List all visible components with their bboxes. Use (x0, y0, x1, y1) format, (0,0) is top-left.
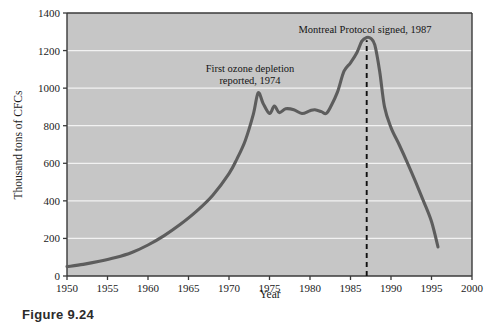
y-tick-label-400: 400 (44, 195, 61, 207)
x-tick-label-1960: 1960 (137, 282, 160, 294)
figure-container: 0200400600800100012001400 19501955196019… (0, 0, 497, 325)
annotation-first-ozone-depletion-line-2: reported, 1974 (219, 75, 281, 86)
figure-caption: Figure 9.24 (22, 307, 94, 325)
x-tick-label-1980: 1980 (299, 282, 322, 294)
annotation-first-ozone-depletion-line-1: First ozone depletion (206, 63, 295, 74)
y-tick-label-1400: 1400 (38, 7, 61, 19)
annotation-montreal-protocol-line-1: Montreal Protocol signed, 1987 (299, 24, 432, 35)
y-tick-label-200: 200 (44, 232, 61, 244)
y-tick-label-800: 800 (44, 120, 61, 132)
y-tick-label-0: 0 (55, 270, 61, 282)
x-axis-title: Year (259, 288, 280, 300)
x-tick-label-1955: 1955 (97, 282, 120, 294)
y-axis: 0200400600800100012001400 (38, 7, 67, 282)
x-tick-label-1990: 1990 (380, 282, 403, 294)
cfc-production-line-chart: 0200400600800100012001400 19501955196019… (0, 0, 497, 300)
y-tick-label-600: 600 (44, 157, 61, 169)
x-tick-label-1995: 1995 (421, 282, 444, 294)
y-axis-title: Thousand tons of CFCs (12, 90, 24, 199)
plot-background (67, 13, 472, 276)
x-tick-label-2000: 2000 (461, 282, 484, 294)
x-tick-label-1965: 1965 (178, 282, 201, 294)
y-tick-label-1200: 1200 (38, 45, 61, 57)
x-tick-label-1970: 1970 (218, 282, 241, 294)
x-tick-label-1950: 1950 (56, 282, 79, 294)
y-tick-label-1000: 1000 (38, 82, 61, 94)
x-tick-label-1985: 1985 (340, 282, 363, 294)
